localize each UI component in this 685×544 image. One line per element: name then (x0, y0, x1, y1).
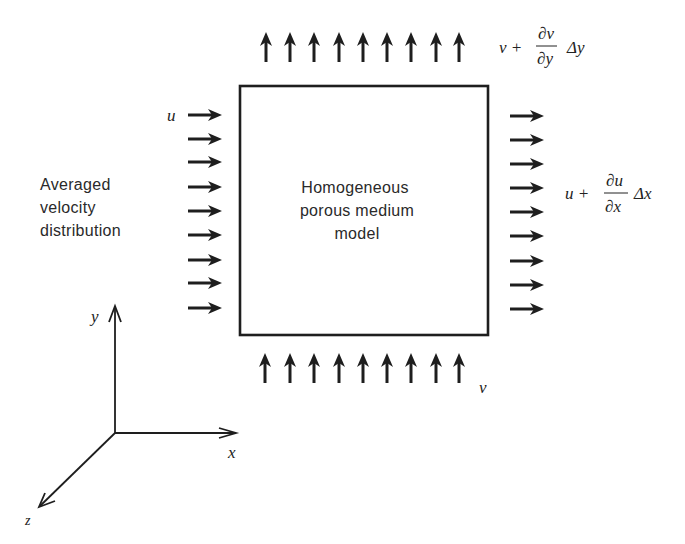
side-label: Averaged velocity distribution (40, 176, 121, 239)
z-axis-label: z (24, 513, 31, 528)
arrow-up-icon (381, 32, 393, 62)
arrow-up-icon (453, 353, 465, 383)
outflow-y-tail: Δy (566, 38, 585, 57)
z-axis (40, 433, 115, 506)
arrow-right-icon (510, 230, 544, 242)
outflow-y-lhs: v + (499, 38, 522, 57)
arrow-up-icon (308, 353, 320, 383)
arrow-right-icon (188, 181, 222, 193)
arrow-right-icon (510, 303, 544, 315)
arrow-up-icon (453, 32, 465, 62)
arrow-right-icon (510, 158, 544, 170)
arrow-right-icon (510, 255, 544, 267)
arrow-up-icon (284, 32, 296, 62)
arrow-right-icon (510, 134, 544, 146)
arrow-right-icon (188, 133, 222, 145)
arrow-right-icon (188, 302, 222, 314)
outflow-y-denominator: ∂y (537, 49, 553, 68)
arrow-up-icon (430, 32, 442, 62)
arrow-up-icon (284, 353, 296, 383)
porous-medium-diagram: Homogeneous porous medium model Averaged… (0, 0, 685, 544)
outflow-y-numerator: ∂v (538, 24, 554, 43)
arrow-up-icon (333, 353, 345, 383)
arrow-right-icon (188, 156, 222, 168)
y-axis-label: y (89, 307, 99, 326)
inflow-y-arrows (259, 353, 465, 383)
inflow-x-label: u (167, 106, 176, 125)
arrow-up-icon (405, 353, 417, 383)
outflow-x-lhs: u + (565, 184, 589, 203)
arrow-right-icon (510, 206, 544, 218)
arrow-up-icon (381, 353, 393, 383)
box-label-line-1: Homogeneous (301, 179, 408, 196)
arrow-up-icon (333, 32, 345, 62)
box-label-line-2: porous medium (300, 202, 414, 219)
arrow-up-icon (405, 32, 417, 62)
outflow-x-arrows (510, 110, 544, 315)
side-label-line-2: velocity (40, 199, 96, 216)
outflow-x-tail: Δx (633, 184, 652, 203)
coordinate-axes: y x z (24, 306, 236, 528)
outflow-x-numerator: ∂u (606, 171, 623, 190)
outflow-y-arrows (260, 32, 465, 62)
side-label-line-3: distribution (40, 222, 121, 239)
arrow-right-icon (188, 254, 222, 266)
x-axis-label: x (227, 443, 236, 462)
arrow-up-icon (357, 32, 369, 62)
arrow-up-icon (357, 353, 369, 383)
arrow-right-icon (510, 182, 544, 194)
outflow-x-denominator: ∂x (605, 197, 621, 216)
box-label-line-3: model (334, 225, 379, 242)
arrow-up-icon (430, 353, 442, 383)
outflow-x-label: u + ∂u ∂x Δx (565, 171, 652, 216)
arrow-up-icon (260, 32, 272, 62)
arrow-right-icon (188, 277, 222, 289)
side-label-line-1: Averaged (40, 176, 111, 193)
arrow-right-icon (188, 205, 222, 217)
arrow-right-icon (510, 110, 544, 122)
inflow-x-arrows (188, 109, 222, 314)
arrow-right-icon (188, 109, 222, 121)
inflow-y-label: v (479, 378, 487, 397)
arrow-right-icon (188, 229, 222, 241)
box-label: Homogeneous porous medium model (300, 179, 414, 242)
arrow-right-icon (510, 279, 544, 291)
arrow-up-icon (259, 353, 271, 383)
outflow-y-label: v + ∂v ∂y Δy (499, 24, 585, 68)
arrow-up-icon (308, 32, 320, 62)
